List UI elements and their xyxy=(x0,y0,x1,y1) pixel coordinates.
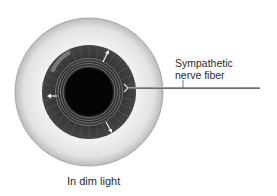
nerve-label-line2: nerve fiber xyxy=(175,69,233,81)
figure-caption: In dim light xyxy=(67,175,120,187)
nerve-label-line1: Sympathetic xyxy=(175,57,233,69)
pupil xyxy=(65,68,113,116)
pupil-dilation-diagram xyxy=(0,0,277,196)
nerve-fiber-label: Sympathetic nerve fiber xyxy=(175,57,233,81)
